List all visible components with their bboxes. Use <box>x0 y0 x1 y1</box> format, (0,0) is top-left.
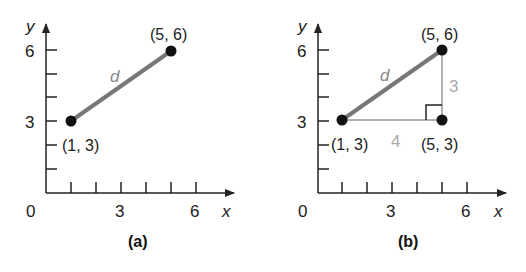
point-1-3 <box>66 116 77 127</box>
y-tick-label-3: 3 <box>25 113 34 132</box>
panel-b: y 6 3 0 3 6 x 4 3 d (1, 3) (5, 6) (5, 3)… <box>297 17 506 250</box>
figure: y 6 3 0 3 6 x d (1, 3) (5, 6) (a) <box>0 0 526 272</box>
x-tick-label-3: 3 <box>386 202 395 221</box>
origin-label: 0 <box>26 202 35 221</box>
y-ticks <box>318 50 329 169</box>
distance-label-d: d <box>380 66 390 85</box>
panel-a: y 6 3 0 3 6 x d (1, 3) (5, 6) (a) <box>25 17 234 250</box>
point-label-5-6: (5, 6) <box>421 26 458 43</box>
point-5-6 <box>437 45 448 56</box>
x-tick-label-6: 6 <box>461 202 470 221</box>
caption-a: (a) <box>128 233 148 250</box>
point-label-1-3: (1, 3) <box>62 137 99 154</box>
point-5-6 <box>166 46 177 57</box>
x-tick-label-6: 6 <box>190 202 199 221</box>
y-axis-label: y <box>297 17 308 36</box>
x-tick-label-3: 3 <box>115 202 124 221</box>
x-axis-label: x <box>221 202 231 221</box>
point-label-1-3: (1, 3) <box>331 136 368 153</box>
y-axis-label: y <box>25 17 36 36</box>
origin-label: 0 <box>298 202 307 221</box>
distance-segment-d <box>71 51 171 121</box>
point-label-5-6: (5, 6) <box>150 26 187 43</box>
vertical-leg-label: 3 <box>449 77 458 96</box>
point-1-3 <box>337 115 348 126</box>
distance-segment-d <box>342 50 442 120</box>
caption-b: (b) <box>398 233 418 250</box>
y-tick-label-6: 6 <box>25 42 34 61</box>
x-ticks <box>342 182 467 193</box>
x-axis-label: x <box>493 202 503 221</box>
x-ticks <box>71 182 196 193</box>
point-5-3 <box>437 115 448 126</box>
point-label-5-3: (5, 3) <box>421 136 458 153</box>
y-tick-label-3: 3 <box>297 113 306 132</box>
y-ticks <box>46 50 57 169</box>
horizontal-leg-label: 4 <box>391 132 400 151</box>
y-tick-label-6: 6 <box>297 42 306 61</box>
distance-label-d: d <box>110 67 120 86</box>
